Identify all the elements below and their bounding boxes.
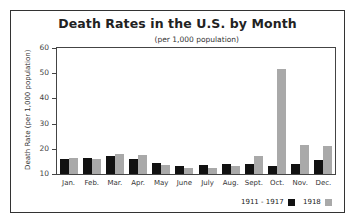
- bar-1911-1917-3: [129, 159, 138, 174]
- y-tick-label: 20: [35, 144, 49, 153]
- y-tick-label: 10: [35, 169, 49, 178]
- bar-1911-1917-9: [268, 166, 277, 174]
- legend-swatch-black: [288, 199, 295, 206]
- bar-1918-9: [277, 69, 286, 174]
- bar-1918-0: [69, 158, 78, 174]
- bar-1911-1917-6: [199, 165, 208, 174]
- plot-area: 102030405060Jan.Feb.Mar.Apr.MayJuneJulyA…: [56, 47, 336, 175]
- legend-label: 1911 - 1917: [241, 198, 284, 206]
- bar-1918-6: [208, 168, 217, 174]
- bar-1918-2: [115, 154, 124, 174]
- legend-swatch-gray: [325, 199, 332, 206]
- bar-1911-1917-0: [60, 159, 69, 174]
- bar-1918-11: [323, 146, 332, 174]
- y-tick: [52, 124, 57, 125]
- bar-1911-1917-5: [175, 166, 184, 174]
- chart-title: Death Rates in the U.S. by Month: [11, 16, 344, 31]
- y-tick-label: 30: [35, 119, 49, 128]
- bar-1911-1917-10: [291, 164, 300, 174]
- y-tick-label: 40: [35, 93, 49, 102]
- bar-1911-1917-8: [245, 164, 254, 174]
- y-tick: [52, 98, 57, 99]
- bar-1918-10: [300, 145, 309, 174]
- bar-1918-5: [184, 168, 193, 174]
- bar-1918-7: [231, 166, 240, 174]
- bar-1918-1: [92, 159, 101, 174]
- legend-item-1918: 1918: [303, 198, 332, 206]
- bar-1911-1917-4: [152, 163, 161, 174]
- y-tick-label: 50: [35, 68, 49, 77]
- bar-1918-8: [254, 156, 263, 174]
- legend-label: 1918: [303, 198, 321, 206]
- legend-item-1911-1917: 1911 - 1917: [241, 198, 295, 206]
- y-tick: [52, 73, 57, 74]
- bar-1918-3: [138, 155, 147, 174]
- bar-1911-1917-2: [106, 156, 115, 174]
- bar-1911-1917-11: [314, 160, 323, 174]
- y-tick: [52, 174, 57, 175]
- bar-1918-4: [161, 165, 170, 174]
- y-tick: [52, 149, 57, 150]
- chart-subtitle: (per 1,000 population): [155, 35, 239, 44]
- y-tick: [52, 48, 57, 49]
- bar-1911-1917-1: [83, 158, 92, 174]
- y-axis-label: Death Rate (per 1,000 population): [24, 60, 32, 170]
- bar-1911-1917-7: [222, 164, 231, 174]
- x-tick-label: Dec.: [308, 179, 338, 187]
- chart-frame: Death Rates in the U.S. by Month (per 1,…: [10, 10, 345, 213]
- y-tick-label: 60: [35, 43, 49, 52]
